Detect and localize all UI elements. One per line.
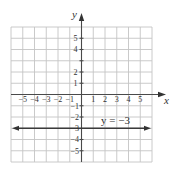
y-axis-label: y — [71, 8, 77, 20]
x-tick-label: 5 — [138, 95, 142, 104]
x-tick-label: 4 — [127, 95, 131, 104]
x-tick-label: 3 — [115, 95, 119, 104]
y-tick-label: −2 — [70, 113, 79, 122]
x-tick-label: −5 — [18, 95, 27, 104]
y-tick-label: −3 — [70, 124, 79, 133]
x-tick-label: 1 — [91, 95, 95, 104]
equation-label: y = −3 — [101, 114, 130, 126]
y-axis-arrow-icon — [79, 13, 84, 21]
y-tick-label: −4 — [70, 135, 79, 144]
x-tick-label: 2 — [103, 95, 107, 104]
y-tick-label: 5 — [74, 34, 78, 43]
x-tick-label: −2 — [54, 95, 63, 104]
coordinate-plane: y x −5 −4 −3 −2 −1 1 2 3 4 5 5 4 2 1 −1 … — [0, 0, 179, 170]
left-arrow-icon — [12, 126, 19, 131]
x-tick-label: −4 — [30, 95, 39, 104]
y-tick-label: 4 — [74, 45, 78, 54]
y-tick-label: 2 — [74, 68, 78, 77]
x-tick-label: −3 — [42, 95, 51, 104]
y-tick-label: −1 — [70, 102, 79, 111]
x-axis-label: x — [163, 94, 169, 106]
right-arrow-icon — [144, 126, 151, 131]
y-tick-label: −5 — [70, 147, 79, 156]
x-tick-labels: −5 −4 −3 −2 −1 1 2 3 4 5 — [18, 95, 142, 104]
y-tick-label: 1 — [74, 79, 78, 88]
